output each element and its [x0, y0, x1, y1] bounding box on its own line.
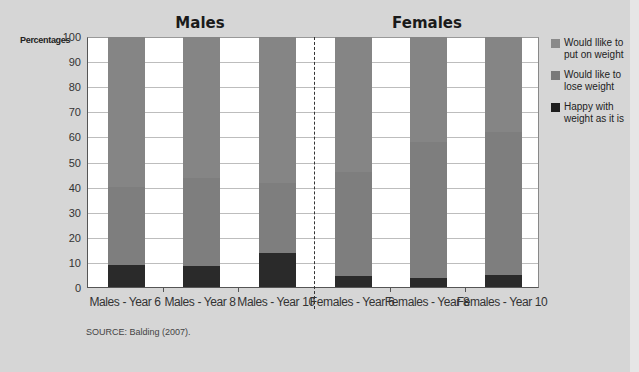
- y-tick-label: 70: [55, 106, 81, 118]
- x-tick-label: Males - Year 8: [164, 295, 235, 309]
- y-tick-label: 50: [55, 157, 81, 169]
- legend-item: Happy with weight as it is: [551, 101, 631, 125]
- legend-label: Would llike to put on weight: [564, 37, 631, 61]
- bar-segment: [410, 142, 447, 278]
- legend-swatch-icon: [551, 71, 560, 80]
- y-tick-label: 100: [55, 31, 81, 43]
- x-tick: [390, 288, 391, 292]
- y-tick-label: 80: [55, 81, 81, 93]
- y-tick-label: 0: [55, 282, 81, 294]
- x-tick-label: Males - Year 10: [237, 295, 314, 309]
- plot-area: [87, 37, 539, 288]
- x-tick: [238, 288, 239, 292]
- legend: Would llike to put on weightWould like t…: [551, 37, 631, 133]
- stacked-bar: [183, 37, 220, 287]
- bar-segment: [485, 132, 522, 275]
- y-tick-label: 10: [55, 257, 81, 269]
- bar-segment: [259, 37, 296, 183]
- gridline: [88, 188, 538, 189]
- stacked-bar: [335, 37, 372, 287]
- y-tick-label: 90: [55, 56, 81, 68]
- bar-segment: [259, 183, 296, 253]
- gridline: [88, 137, 538, 138]
- gridline: [88, 87, 538, 88]
- bar-segment: [335, 172, 372, 276]
- y-tick-label: 60: [55, 131, 81, 143]
- right-margin-strip: [630, 0, 639, 372]
- legend-swatch-icon: [551, 103, 560, 112]
- source-note: SOURCE: Balding (2007).: [86, 327, 191, 337]
- x-tick: [465, 288, 466, 292]
- y-tick-label: 40: [55, 182, 81, 194]
- y-tick-label: 20: [55, 232, 81, 244]
- bar-segment: [485, 37, 522, 132]
- bar-segment: [183, 178, 220, 266]
- bar-segment: [335, 276, 372, 287]
- bar-segment: [108, 37, 145, 187]
- legend-label: Would like to lose weight: [564, 69, 631, 93]
- gridline: [88, 213, 538, 214]
- x-tick-label: Males - Year 6: [89, 295, 160, 309]
- stacked-bar: [410, 37, 447, 287]
- legend-item: Would llike to put on weight: [551, 37, 631, 61]
- gridline: [88, 112, 538, 113]
- bar-segment: [410, 37, 447, 142]
- gridline: [88, 62, 538, 63]
- legend-label: Happy with weight as it is: [564, 101, 631, 125]
- bar-segment: [485, 275, 522, 288]
- bar-segment: [335, 37, 372, 172]
- stacked-bar: [108, 37, 145, 287]
- bar-segment: [183, 266, 220, 287]
- x-tick-label: Females - Year 10: [457, 295, 548, 309]
- bar-segment: [410, 278, 447, 287]
- bar-segment: [183, 37, 220, 178]
- stacked-bar: [259, 37, 296, 287]
- legend-item: Would like to lose weight: [551, 69, 631, 93]
- stacked-bar: [485, 37, 522, 287]
- legend-swatch-icon: [551, 39, 560, 48]
- bar-segment: [259, 253, 296, 287]
- x-tick: [163, 288, 164, 292]
- y-tick-label: 30: [55, 207, 81, 219]
- gridline: [88, 163, 538, 164]
- group-divider: [314, 37, 315, 309]
- bar-segment: [108, 265, 145, 287]
- gridline: [88, 238, 538, 239]
- males-title: Males: [175, 14, 224, 32]
- x-tick-label: Females - Year 6: [310, 295, 394, 309]
- gridline: [88, 263, 538, 264]
- females-title: Females: [392, 14, 462, 32]
- bar-segment: [108, 187, 145, 265]
